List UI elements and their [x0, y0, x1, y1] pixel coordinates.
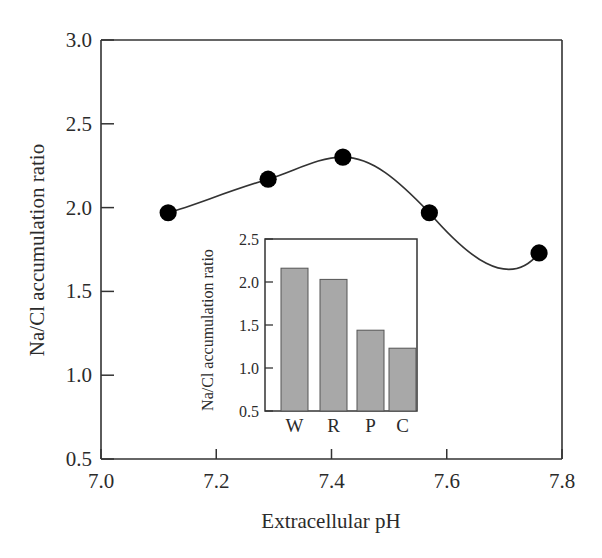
- inset-bar: [281, 268, 308, 411]
- inset-y-tick-label-1: 1.0: [239, 360, 259, 377]
- data-point-marker: [160, 204, 177, 221]
- main-y-tick-label-3: 2.0: [66, 196, 92, 220]
- main-x-tick-label-4: 7.8: [549, 469, 575, 493]
- main-y-tick-label-0: 0.5: [66, 447, 92, 471]
- main-x-tick-label-0: 7.0: [88, 469, 114, 493]
- inset-bar: [357, 330, 384, 411]
- inset-bar: [389, 348, 416, 411]
- inset-category-label-r: R: [327, 415, 340, 436]
- inset-category-label-c: C: [396, 415, 409, 436]
- main-y-axis-title: Na/Cl accumulation ratio: [25, 144, 49, 356]
- data-point-marker: [334, 149, 351, 166]
- main-x-tick-label-1: 7.2: [203, 469, 229, 493]
- inset-y-axis-title: Na/Cl accumulation ratio: [199, 249, 216, 411]
- main-y-tick-label-5: 3.0: [66, 28, 92, 52]
- inset-category-label-p: P: [365, 415, 376, 436]
- main-x-tick-label-2: 7.4: [318, 469, 345, 493]
- main-y-tick-label-1: 1.0: [66, 363, 92, 387]
- inset-y-tick-label-2: 1.5: [239, 317, 259, 334]
- inset-y-tick-label-4: 2.5: [239, 231, 259, 248]
- inset-bar: [320, 279, 347, 411]
- main-y-tick-label-2: 1.5: [66, 279, 92, 303]
- main-x-axis-title: Extracellular pH: [261, 509, 400, 533]
- inset-category-label-w: W: [286, 415, 304, 436]
- chart-canvas: 0.5 1.0 1.5 2.0 2.5 3.0 7.0 7.2 7.4 7.6 …: [0, 0, 602, 558]
- inset-y-tick-label-0: 0.5: [239, 403, 259, 420]
- main-x-tick-label-3: 7.6: [434, 469, 460, 493]
- main-y-tick-label-4: 2.5: [66, 112, 92, 136]
- figure-container: 0.5 1.0 1.5 2.0 2.5 3.0 7.0 7.2 7.4 7.6 …: [0, 0, 602, 558]
- data-point-marker: [260, 171, 277, 188]
- data-point-marker: [421, 204, 438, 221]
- inset-y-tick-label-3: 2.0: [239, 274, 259, 291]
- data-point-marker: [530, 244, 547, 261]
